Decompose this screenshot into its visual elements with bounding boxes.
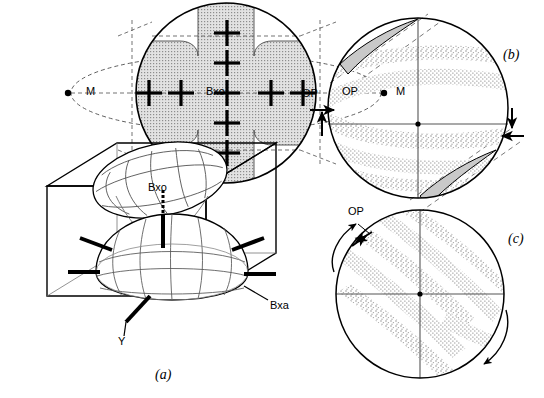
bxa-leader [244,286,268,300]
melatope-dot-left [65,90,71,96]
panel-b-figure [310,14,524,212]
melatope-dot-right [381,90,387,96]
panel-label-b: (b) [503,48,519,62]
label-melatope-right: M [396,86,405,97]
label-op-panel-b: OP [302,88,318,99]
figure-svg [0,0,544,398]
label-bxo-block: Bxo [148,182,167,193]
y-leader [124,322,126,336]
label-y-axis: Y [118,336,125,347]
figure-canvas: M Bxo OP M Bxo Bxa Y (a) OP (b) OP (c) [0,0,544,398]
label-bxa: Bxa [270,300,289,311]
lower-dome [96,214,248,300]
label-op-panel-c: OP [348,206,364,217]
label-bxo-top-view: Bxo [206,86,225,97]
label-optic-plane: OP [342,86,358,97]
panel-b-center-dot [415,121,420,126]
panel-c-figure [332,204,508,380]
panel-label-a: (a) [155,368,171,382]
panel-label-c: (c) [508,232,524,246]
label-melatope-left: M [86,86,95,97]
panel-c-center-dot [417,291,422,296]
